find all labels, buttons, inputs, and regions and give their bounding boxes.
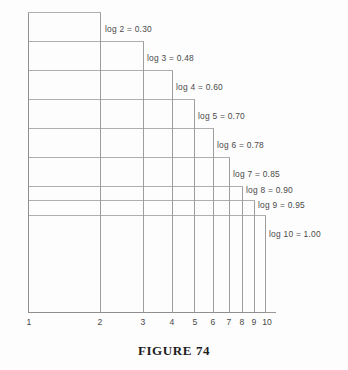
x-tick-6: 6 xyxy=(211,318,216,327)
annotation-log-6: log 6 = 0.78 xyxy=(217,141,264,149)
figure-caption: FIGURE 74 xyxy=(0,343,348,359)
annotation-log-10: log 10 = 1.00 xyxy=(269,230,321,238)
annotation-log-5: log 5 = 0.70 xyxy=(198,112,245,120)
annotation-log-9: log 9 = 0.95 xyxy=(258,201,305,209)
x-tick-2: 2 xyxy=(98,318,103,327)
step-box-6 xyxy=(29,129,214,313)
x-tick-5: 5 xyxy=(193,318,198,327)
step-box-10 xyxy=(29,216,266,313)
annotation-log-7: log 7 = 0.85 xyxy=(233,170,280,178)
log-step-chart xyxy=(0,0,348,340)
x-tick-8: 8 xyxy=(240,318,245,327)
x-tick-10: 10 xyxy=(262,318,272,327)
annotation-log-3: log 3 = 0.48 xyxy=(147,54,194,62)
step-box-5 xyxy=(29,100,195,313)
annotation-log-2: log 2 = 0.30 xyxy=(105,25,152,33)
annotation-log-4: log 4 = 0.60 xyxy=(176,83,223,91)
step-box-8 xyxy=(29,187,243,313)
step-box-2 xyxy=(29,13,101,313)
figure-74-diagram: log 2 = 0.30 log 3 = 0.48 log 4 = 0.60 l… xyxy=(0,0,348,370)
step-box-9 xyxy=(29,201,255,313)
x-tick-4: 4 xyxy=(170,318,175,327)
step-box-7 xyxy=(29,158,230,313)
x-tick-3: 3 xyxy=(141,318,146,327)
step-box-3 xyxy=(29,42,144,313)
annotation-log-8: log 8 = 0.90 xyxy=(246,186,293,194)
x-tick-1: 1 xyxy=(27,318,32,327)
x-tick-9: 9 xyxy=(252,318,257,327)
x-tick-7: 7 xyxy=(227,318,232,327)
